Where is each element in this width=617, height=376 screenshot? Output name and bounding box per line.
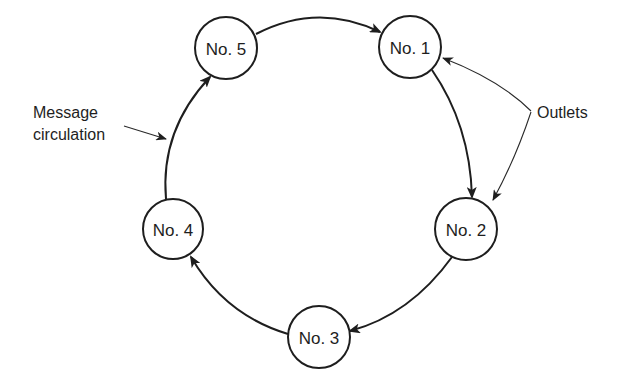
message-circulation-leader bbox=[124, 126, 166, 139]
node-no4: No. 4 bbox=[143, 199, 203, 259]
message-circulation-label-line1: Message bbox=[33, 104, 98, 121]
outlets-leader-no1 bbox=[443, 58, 531, 111]
outlets-label: Outlets bbox=[537, 104, 588, 121]
message-circulation-label-line2: circulation bbox=[33, 126, 105, 143]
edge-no1-to-no2 bbox=[432, 70, 472, 197]
node-no1: No. 1 bbox=[379, 16, 441, 78]
ring-network-diagram: No. 5 No. 1 No. 2 No. 3 No. 4 Message ci… bbox=[0, 0, 617, 376]
node-label: No. 1 bbox=[390, 39, 431, 58]
edge-no4-to-no5 bbox=[165, 77, 210, 199]
node-no3: No. 3 bbox=[288, 306, 350, 368]
edge-no2-to-no3 bbox=[350, 257, 452, 331]
node-label: No. 5 bbox=[206, 40, 247, 59]
node-label: No. 4 bbox=[153, 221, 194, 240]
edge-no5-to-no1 bbox=[256, 17, 380, 34]
node-label: No. 2 bbox=[446, 221, 487, 240]
outlets-leader-no2 bbox=[493, 112, 531, 200]
node-no5: No. 5 bbox=[195, 17, 257, 79]
edge-no3-to-no4 bbox=[191, 257, 288, 334]
node-label: No. 3 bbox=[299, 329, 340, 348]
node-no2: No. 2 bbox=[435, 198, 497, 260]
